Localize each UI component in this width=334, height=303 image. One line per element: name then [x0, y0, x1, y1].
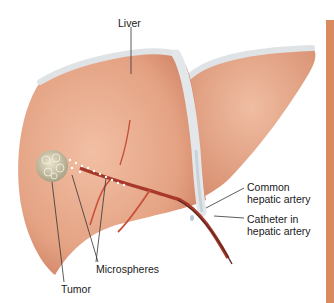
catheter-leader: [214, 216, 244, 218]
left-lobe: [188, 48, 315, 196]
common-artery-label-line2: hepatic artery: [247, 193, 311, 205]
liver-diagram: Liver Common hepatic artery Catheter in …: [0, 0, 334, 303]
catheter-label-line1: Catheter in: [247, 213, 298, 225]
accent-sidebar: [326, 20, 334, 303]
liver-illustration: [0, 0, 334, 303]
tumor-label: Tumor: [61, 283, 91, 295]
microspheres-label: Microspheres: [96, 263, 159, 275]
common-artery-label-line1: Common: [247, 181, 290, 193]
liver-label: Liver: [118, 17, 141, 29]
catheter-label-line2: hepatic artery: [247, 225, 311, 237]
